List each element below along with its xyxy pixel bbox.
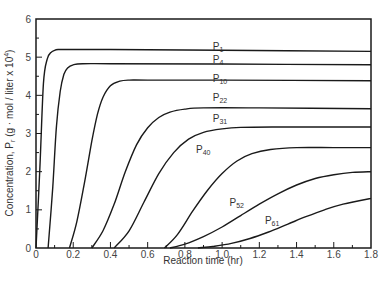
x-tick-label: 1.6 <box>327 249 341 260</box>
y-tick-label: 2 <box>25 166 31 177</box>
series-label-p61: P61 <box>265 215 280 227</box>
y-tick-label: 6 <box>25 14 31 25</box>
series-label-p52: P52 <box>230 197 245 209</box>
series-label-p40: P40 <box>196 144 211 156</box>
x-tick-label: 1.4 <box>290 249 304 260</box>
series-line-p61 <box>198 198 371 248</box>
plot-frame <box>36 19 371 248</box>
series-line-p4 <box>48 64 371 248</box>
series-line-p31 <box>114 127 371 248</box>
y-tick-label: 1 <box>25 204 31 215</box>
series-line-p52 <box>170 172 371 248</box>
series-label-p10: P10 <box>213 73 228 85</box>
series-label-p31: P31 <box>213 113 228 125</box>
series-label-p4: P4 <box>213 54 224 66</box>
x-tick-label: 0 <box>33 249 39 260</box>
series-label-p1: P1 <box>213 41 224 53</box>
y-tick-label: 0 <box>25 243 31 254</box>
y-tick-label: 3 <box>25 128 31 139</box>
y-tick-label: 4 <box>25 90 31 101</box>
y-tick-labels: 0123456 <box>25 14 31 254</box>
series-line-p22 <box>92 108 371 248</box>
x-tick-label: 0.4 <box>103 249 117 260</box>
x-tick-label: 0.6 <box>141 249 155 260</box>
x-tick-label: 1.8 <box>364 249 378 260</box>
series-label-p22: P22 <box>213 92 228 104</box>
chart: P1P4P10P22P31P40P52P61 00.20.40.60.81.01… <box>0 0 391 283</box>
y-axis-label: Concentration, Pr (g · mol / liter x 104… <box>3 50 16 217</box>
x-tick-label: 0.2 <box>66 249 80 260</box>
x-axis-label: Reaction time (hr) <box>163 255 242 266</box>
series-line-p10 <box>70 80 372 248</box>
x-tick-label: 1.2 <box>252 249 266 260</box>
y-tick-label: 5 <box>25 52 31 63</box>
